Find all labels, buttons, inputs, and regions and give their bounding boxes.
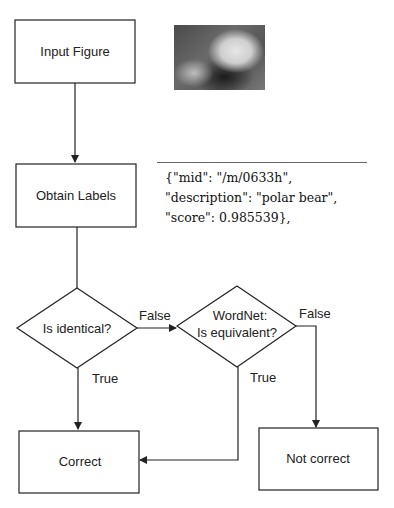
edge-identical-true-label: True [92,371,118,386]
node-is-identical: Is identical? [17,288,137,368]
node-not-correct-label: Not correct [286,451,350,466]
json-line-2: "description": "polar bear", [165,188,337,208]
node-is-identical-label: Is identical? [43,321,112,336]
node-obtain-labels-label: Obtain Labels [36,188,117,203]
json-separator-rule [157,162,367,163]
node-correct: Correct [19,431,139,493]
input-photo [174,25,265,90]
json-line-1: {"mid": "/m/0633h", [165,168,337,188]
node-correct-label: Correct [59,454,102,469]
node-wordnet-label-line2: Is equivalent? [197,325,277,340]
node-input-figure-label: Input Figure [40,44,109,59]
node-wordnet-equivalent: WordNet: Is equivalent? [177,286,296,367]
edge-wordnet-false-label: False [299,306,331,321]
edge-wordnet-true-label: True [250,370,276,385]
label-output-json: {"mid": "/m/0633h","description": "polar… [165,168,337,228]
edge-wordnet-true [140,367,238,460]
node-obtain-labels: Obtain Labels [16,164,136,227]
node-wordnet-label-line1: WordNet: [213,308,268,323]
node-not-correct: Not correct [259,428,378,490]
edge-identical-false-label: False [139,308,171,323]
json-line-3: "score": 0.985539}, [165,208,337,228]
node-input-figure: Input Figure [15,20,135,83]
edge-wordnet-false [296,326,316,427]
